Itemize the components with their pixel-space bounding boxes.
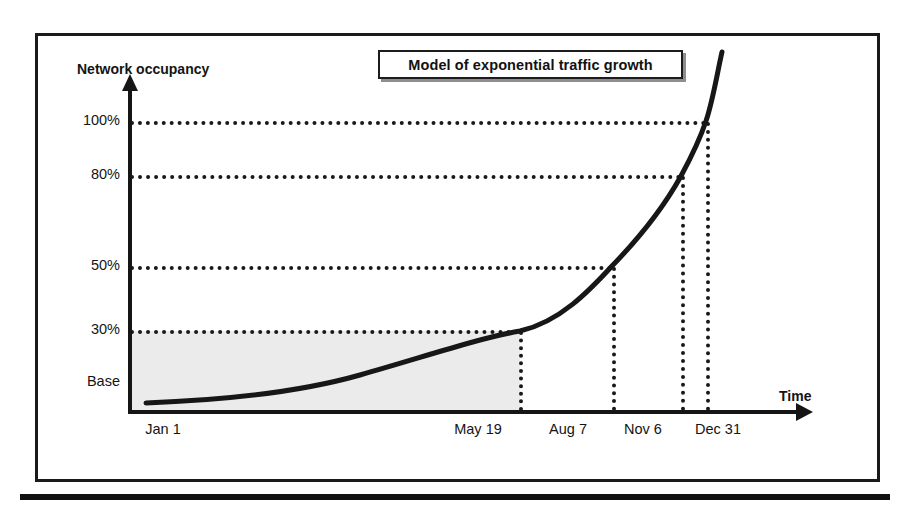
y-tick-label-80: 80% [50,166,120,182]
x-tick-label-nov-6: Nov 6 [624,421,662,437]
y-axis-line [128,88,132,414]
y-axis-title: Network occupancy [77,61,209,77]
gridline-50 [130,266,612,270]
gridline-100 [130,121,706,125]
dropline-aug-7 [612,267,616,411]
figure-root: Network occupancy Time 100% 80% 50% 30% … [0,0,910,511]
y-tick-label-base: Base [50,373,120,389]
y-tick-label-50: 50% [50,257,120,273]
x-tick-label-jan-1: Jan 1 [145,421,180,437]
y-tick-label-100: 100% [50,112,120,128]
x-axis-title: Time [779,388,811,404]
x-axis-arrow-icon [796,403,813,421]
bottom-divider [20,494,890,500]
gridline-80 [130,175,681,179]
y-tick-label-30: 30% [50,321,120,337]
chart-title-box: Model of exponential traffic growth [378,50,683,79]
dropline-dec-31 [706,122,710,411]
base-shaded-region [131,331,520,411]
chart-title: Model of exponential traffic growth [408,57,652,73]
dropline-may-19 [519,331,523,411]
gridline-30 [130,330,519,334]
x-axis-line [128,410,800,414]
dropline-nov-6 [681,176,685,411]
x-tick-label-aug-7: Aug 7 [549,421,587,437]
x-tick-label-may-19: May 19 [454,421,502,437]
x-tick-label-dec-31: Dec 31 [695,421,741,437]
